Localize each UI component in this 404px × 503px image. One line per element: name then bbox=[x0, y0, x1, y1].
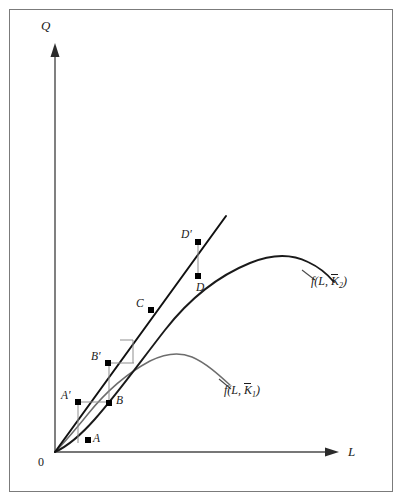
y-axis-label: Q bbox=[41, 18, 50, 34]
fn1-K-bar: K bbox=[244, 383, 252, 398]
point-label-D-prime-mark: ′ bbox=[189, 228, 192, 240]
point-marker-D-prime bbox=[195, 239, 201, 245]
point-marker-A bbox=[85, 437, 91, 443]
point-label-A-prime-mark: ′ bbox=[68, 389, 71, 401]
point-label-A-prime-letter: A bbox=[61, 389, 68, 401]
point-marker-C bbox=[148, 307, 154, 313]
figure-root: Q L 0 A A′ B B′ C D D′ f(L, K2) f(L, K1) bbox=[0, 0, 404, 503]
point-label-C: C bbox=[136, 297, 144, 309]
point-marker-D bbox=[195, 273, 201, 279]
curve-label-f-L-K1: f(L, K1) bbox=[224, 383, 260, 399]
point-label-D: D bbox=[196, 281, 204, 293]
fn2-comma: , bbox=[325, 274, 328, 288]
point-label-D-prime: D′ bbox=[181, 228, 192, 240]
point-label-B-prime: B′ bbox=[91, 350, 101, 362]
point-label-B-prime-letter: B bbox=[91, 350, 98, 362]
curve-f-L-K1 bbox=[55, 354, 230, 452]
fn1-close: ) bbox=[256, 383, 260, 397]
point-marker-B bbox=[106, 400, 112, 406]
point-marker-A-prime bbox=[75, 399, 81, 405]
tangent-ray-from-origin bbox=[55, 216, 226, 452]
origin-label: 0 bbox=[38, 455, 44, 470]
production-function-plot bbox=[0, 0, 404, 503]
x-axis-arrowhead bbox=[325, 448, 339, 457]
point-label-A-prime: A′ bbox=[61, 389, 71, 401]
point-label-B-prime-mark: ′ bbox=[98, 350, 101, 362]
point-label-B: B bbox=[116, 394, 123, 406]
fn2-close: ) bbox=[343, 274, 347, 288]
fn2-K-bar: K bbox=[331, 274, 339, 289]
point-marker-B-prime bbox=[105, 360, 111, 366]
x-axis-label: L bbox=[348, 444, 355, 460]
y-axis-arrowhead bbox=[51, 43, 60, 57]
point-label-A: A bbox=[93, 432, 100, 444]
fn1-comma: , bbox=[238, 383, 241, 397]
curve-label-f-L-K2: f(L, K2) bbox=[311, 274, 347, 290]
